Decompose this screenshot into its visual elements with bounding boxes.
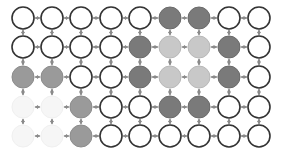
- node-w: [129, 125, 151, 147]
- node-w: [12, 7, 34, 29]
- node-f: [12, 125, 34, 147]
- node-w: [100, 7, 122, 29]
- node-w: [159, 125, 181, 147]
- node-d: [129, 66, 151, 88]
- node-m: [70, 125, 92, 147]
- node-w: [41, 7, 63, 29]
- node-m: [12, 66, 34, 88]
- node-f: [12, 96, 34, 118]
- node-d: [188, 96, 210, 118]
- node-w: [248, 36, 270, 58]
- node-d: [218, 36, 240, 58]
- node-w: [218, 96, 240, 118]
- node-m: [41, 66, 63, 88]
- node-d: [159, 7, 181, 29]
- node-w: [129, 96, 151, 118]
- node-m: [70, 96, 92, 118]
- node-f: [41, 96, 63, 118]
- node-w: [100, 96, 122, 118]
- node-l: [188, 66, 210, 88]
- node-d: [218, 66, 240, 88]
- node-w: [248, 66, 270, 88]
- grid-diagram: [0, 0, 282, 156]
- node-w: [41, 36, 63, 58]
- node-l: [159, 66, 181, 88]
- node-l: [159, 36, 181, 58]
- node-w: [248, 96, 270, 118]
- node-f: [41, 125, 63, 147]
- node-d: [159, 96, 181, 118]
- node-w: [70, 7, 92, 29]
- node-w: [100, 125, 122, 147]
- node-w: [12, 36, 34, 58]
- node-w: [218, 125, 240, 147]
- node-w: [248, 125, 270, 147]
- node-w: [70, 36, 92, 58]
- node-d: [188, 7, 210, 29]
- node-w: [100, 36, 122, 58]
- node-w: [188, 125, 210, 147]
- nodes: [12, 7, 270, 147]
- node-w: [218, 7, 240, 29]
- node-w: [70, 66, 92, 88]
- node-d: [129, 36, 151, 58]
- grid-graph-canvas: [0, 0, 282, 156]
- node-w: [100, 66, 122, 88]
- node-l: [188, 36, 210, 58]
- node-w: [129, 7, 151, 29]
- node-w: [248, 7, 270, 29]
